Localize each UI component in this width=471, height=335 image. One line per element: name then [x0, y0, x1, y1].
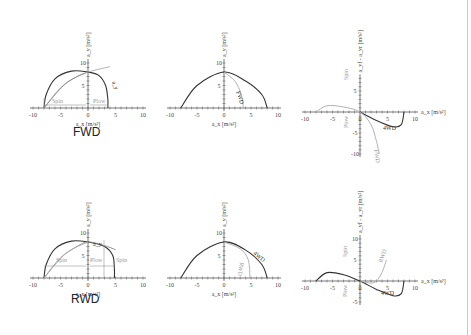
FWD-balance-y-axis-label: a_yf - a_yr [m/s²] [357, 30, 364, 72]
RWD-gg-x-tick-label: -5 [195, 282, 200, 288]
FWD-balance-y-tick-label: 5 [354, 88, 357, 94]
RWD-balance-x-tick-label: -10 [301, 285, 309, 291]
annotation-4wd: 4WD [383, 125, 397, 131]
annotation-spin: Spin [52, 98, 63, 104]
FWD-balance-x-tick-label: -5 [330, 116, 335, 122]
FWD-friction-ellipse-x-tick-label: -5 [58, 112, 63, 118]
FWD-balance-series-fwd [316, 105, 379, 154]
FWD-friction-ellipse-y-tick-label: 5 [82, 83, 85, 89]
RWD-balance-x-tick-label: -5 [330, 285, 335, 291]
RWD-friction-ellipse-x-tick-label: 0 [87, 282, 90, 288]
RWD-friction-ellipse-x-tick-label: 10 [140, 282, 146, 288]
RWD-balance-y-tick-label: 5 [354, 257, 357, 263]
RWD-balance-x-tick-label: 0 [359, 285, 362, 291]
row-title-fwd: FWD [73, 125, 100, 139]
annotation-plow: Plow [93, 98, 106, 104]
FWD-balance-x-tick-label: 0 [359, 116, 362, 122]
FWD-balance-y-tick-label: -5 [353, 130, 358, 136]
RWD-balance-y-tick-label: 10 [352, 236, 358, 242]
FWD-gg-y-tick-label: 5 [218, 83, 221, 89]
row-title-rwd: RWD [71, 292, 99, 306]
RWD-friction-ellipse-y-axis-label: a_y [m/s²] [85, 202, 92, 227]
RWD-balance-x-tick-label: 10 [412, 285, 418, 291]
FWD-gg-x-axis-label: a_x [m/s²] [212, 121, 237, 128]
FWD-friction-ellipse-x-tick-label: 0 [87, 112, 90, 118]
annotation-ay: a_y [111, 80, 120, 90]
FWD-gg-y-axis-label: a_y [m/s²] [221, 32, 228, 57]
FWD-balance-series-4wd [360, 112, 404, 127]
FWD-gg-x-tick-label: -10 [166, 112, 174, 118]
RWD-friction-ellipse-series-g-line [44, 242, 116, 278]
annotation-spin: Spin [343, 69, 349, 80]
FWD-gg-y-tick-label: 10 [216, 60, 222, 66]
annotation-plow: Plow [342, 284, 348, 297]
RWD-friction-ellipse-x-tick-label: -5 [58, 282, 63, 288]
annotation-spin: Spin [56, 257, 67, 263]
RWD-gg-y-tick-label: 5 [218, 253, 221, 259]
annotation-4wd: 4WD [381, 290, 395, 296]
annotation-rwd: RWD [237, 262, 245, 277]
RWD-friction-ellipse-x-tick-label: 5 [114, 282, 117, 288]
RWD-friction-ellipse-x-tick-label: -10 [29, 282, 37, 288]
annotation-ay: a_y [93, 241, 102, 247]
RWD-gg-x-tick-label: -10 [166, 282, 174, 288]
RWD-gg-y-axis-label: a_y [m/s²] [221, 202, 228, 227]
FWD-balance-x-tick-label: 5 [386, 116, 389, 122]
RWD-gg-y-tick-label: 10 [216, 230, 222, 236]
RWD-gg-x-tick-label: 10 [275, 282, 281, 288]
annotation-spin: Spin [342, 246, 348, 257]
FWD-gg-x-tick-label: 10 [275, 112, 281, 118]
FWD-balance-x-tick-label: 10 [412, 116, 418, 122]
FWD-friction-ellipse-y-tick-label: 10 [80, 60, 86, 66]
FWD-balance-x-axis-label: a_x [m/s²] [421, 109, 446, 116]
annotation-plow: Plow [90, 257, 103, 263]
RWD-balance-y-axis-label: a_yf - a_yr [m/s²] [357, 191, 364, 233]
FWD-friction-ellipse-y-axis-label: a_y [m/s²] [85, 32, 92, 57]
FWD-gg-x-tick-label: 5 [250, 112, 253, 118]
FWD-friction-ellipse-x-tick-label: 5 [114, 112, 117, 118]
annotation-fwd-curve: FWD [235, 90, 245, 105]
annotation-plow: Plow [343, 115, 349, 128]
FWD-friction-ellipse-x-tick-label: -10 [29, 112, 37, 118]
RWD-friction-ellipse-y-tick-label: 10 [80, 230, 86, 236]
RWD-balance-y-tick-label: -5 [353, 299, 358, 305]
FWD-gg-x-tick-label: 0 [223, 112, 226, 118]
FWD-balance-y-tick-label: -10 [351, 151, 359, 157]
FWD-balance-x-tick-label: -10 [301, 116, 309, 122]
RWD-balance-x-axis-label: a_x [m/s²] [421, 278, 446, 285]
RWD-gg-series-rwd [224, 242, 250, 278]
RWD-gg-x-tick-label: 0 [223, 282, 226, 288]
RWD-gg-x-axis-label: a_x [m/s²] [212, 291, 237, 298]
annotation-fwd: FWD [373, 149, 381, 164]
FWD-friction-ellipse-x-tick-label: 10 [140, 112, 146, 118]
figure-canvas: -10-50510510a_x [m/s²]a_y [m/s²]-10-5051… [0, 0, 471, 335]
FWD-friction-ellipse-series-inner-curve [44, 72, 88, 108]
RWD-gg-x-tick-label: 5 [250, 282, 253, 288]
RWD-friction-ellipse-y-tick-label: 5 [82, 253, 85, 259]
FWD-gg-x-tick-label: -5 [195, 112, 200, 118]
annotation-spin-right: Spin [116, 257, 127, 263]
